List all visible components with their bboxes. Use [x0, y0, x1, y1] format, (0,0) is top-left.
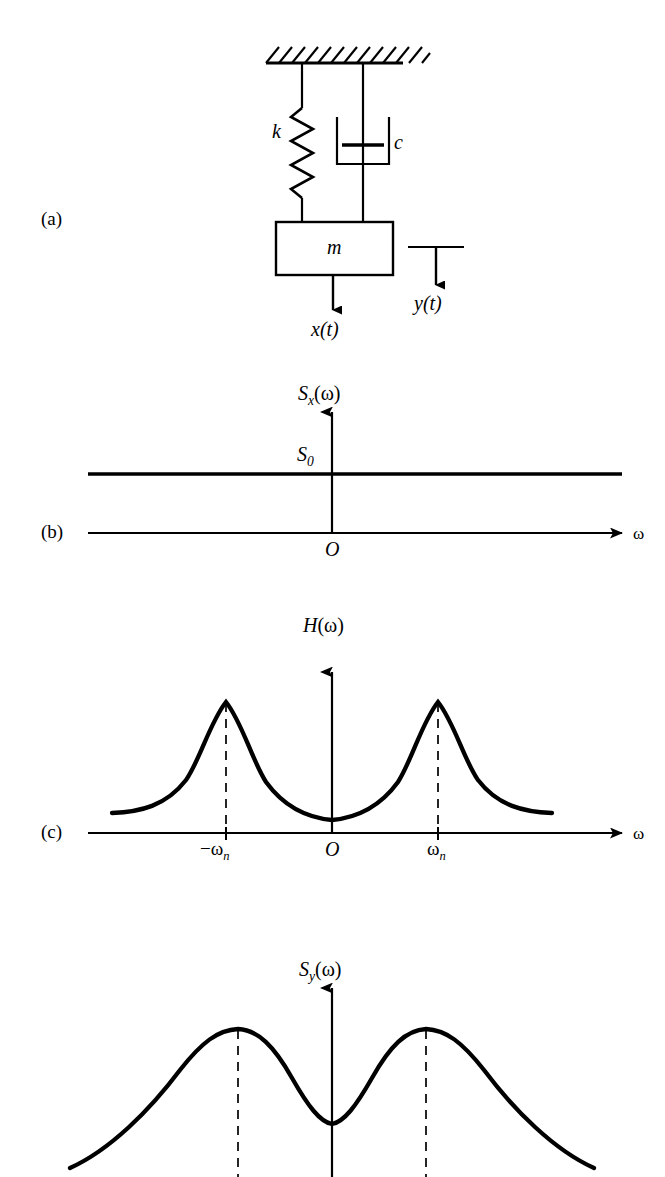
figure-root: (a) k c m x(t) y(t) (b) Sx(ω) S0 O ω (c)… [0, 0, 665, 1177]
sx-base: S [298, 382, 308, 404]
panel-d-y-axis-label: Sy(ω) [299, 958, 342, 985]
spring-constant-label: k [272, 120, 281, 143]
panel-b-origin-label: O [325, 538, 339, 561]
damping-coefficient-label: c [394, 131, 403, 154]
ceiling-hatching [266, 47, 430, 63]
sy-base: S [299, 958, 309, 980]
panel-a-schematic [0, 0, 665, 1177]
tick-label-pos-omega-n: ωn [427, 838, 446, 864]
pos-omega-n-sub: n [440, 849, 446, 863]
h-base: H [303, 614, 317, 636]
h-argument: (ω) [317, 614, 343, 636]
panel-c-y-axis-label: H(ω) [303, 614, 344, 637]
pos-omega-n-text: ω [427, 838, 440, 859]
tick-label-neg-omega-n: −ωn [200, 838, 230, 864]
sx-argument: (ω) [314, 382, 340, 404]
panel-label-b: (b) [41, 521, 63, 543]
mass-label: m [327, 236, 341, 259]
x-displacement-label: x(t) [311, 318, 339, 341]
panel-c-origin-label: O [325, 838, 339, 861]
sy-argument: (ω) [315, 958, 341, 980]
panel-c-omega-label: ω [633, 824, 644, 844]
y-excitation-label: y(t) [414, 292, 442, 315]
panel-b-omega-label: ω [633, 524, 644, 544]
s0-base: S [297, 443, 307, 465]
panel-label-c: (c) [41, 821, 62, 843]
panel-label-a: (a) [41, 208, 62, 230]
neg-omega-n-text: −ω [200, 838, 223, 859]
neg-omega-n-sub: n [223, 849, 229, 863]
s0-subscript: 0 [307, 454, 314, 469]
spring-coil [291, 108, 313, 198]
white-noise-level-label: S0 [297, 443, 314, 470]
panel-b-y-axis-label: Sx(ω) [298, 382, 341, 409]
